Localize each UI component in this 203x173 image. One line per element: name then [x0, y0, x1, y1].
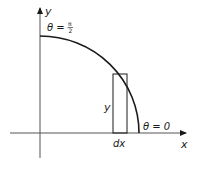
theta-pi-over-2-label: θ = π 2: [47, 20, 73, 34]
quarter-circle-arc: [40, 36, 139, 133]
strip-height-label: y: [103, 101, 111, 114]
diagram-canvas: y x θ = π 2 θ = 0 y dx: [0, 0, 203, 173]
x-axis-label: x: [180, 138, 188, 151]
theta-zero-label: θ = 0: [143, 121, 170, 132]
y-axis-label: y: [44, 5, 52, 18]
theta-end-prefix: θ =: [47, 22, 68, 33]
theta-end-denominator: 2: [69, 27, 73, 34]
strip-width-label: dx: [113, 138, 125, 149]
theta-end-numerator: π: [68, 20, 72, 27]
